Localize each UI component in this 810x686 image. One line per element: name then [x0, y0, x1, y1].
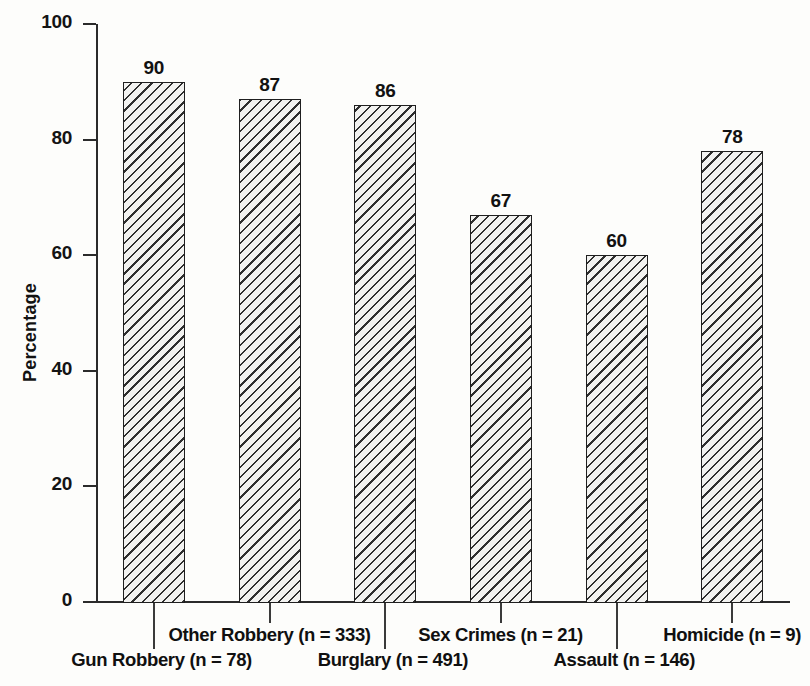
y-tick-label-40: 40 [4, 358, 72, 380]
bar-value-label: 78 [692, 126, 772, 148]
x-tick-0 [153, 603, 155, 649]
x-tick-4 [616, 603, 618, 649]
bar [470, 215, 532, 603]
category-label: Other Robbery (n = 333) [169, 624, 371, 646]
bar-value-label: 67 [461, 190, 541, 212]
y-axis-line [96, 24, 98, 603]
x-tick-5 [731, 603, 733, 623]
y-tick-100 [83, 23, 96, 25]
y-tick-60 [83, 254, 96, 256]
y-tick-label-60: 60 [4, 242, 72, 264]
bar [354, 105, 416, 603]
bar [239, 99, 301, 603]
y-tick-20 [83, 485, 96, 487]
bar [586, 255, 648, 603]
y-tick-label-80: 80 [4, 127, 72, 149]
bar-chart: Percentage 020406080100 908786676078 Gun… [0, 0, 810, 686]
category-label: Assault (n = 146) [554, 649, 696, 671]
category-label: Sex Crimes (n = 21) [418, 624, 583, 646]
x-tick-1 [269, 603, 271, 623]
bar-value-label: 87 [230, 74, 310, 96]
category-label: Homicide (n = 9) [663, 624, 801, 646]
category-label: Gun Robbery (n = 78) [71, 649, 252, 671]
y-tick-40 [83, 370, 96, 372]
bar-value-label: 60 [577, 230, 657, 252]
plot-area: Percentage 020406080100 908786676078 Gun… [0, 0, 810, 686]
bar-value-label: 86 [345, 80, 425, 102]
bar [701, 151, 763, 603]
category-label: Burglary (n = 491) [318, 649, 469, 671]
x-axis-line [96, 601, 790, 603]
bar [123, 82, 185, 603]
y-tick-80 [83, 139, 96, 141]
x-tick-3 [500, 603, 502, 623]
y-tick-label-0: 0 [4, 589, 72, 611]
y-tick-label-100: 100 [4, 11, 72, 33]
bar-value-label: 90 [114, 57, 194, 79]
x-tick-2 [384, 603, 386, 649]
y-tick-label-20: 20 [4, 473, 72, 495]
y-tick-0 [83, 601, 96, 603]
